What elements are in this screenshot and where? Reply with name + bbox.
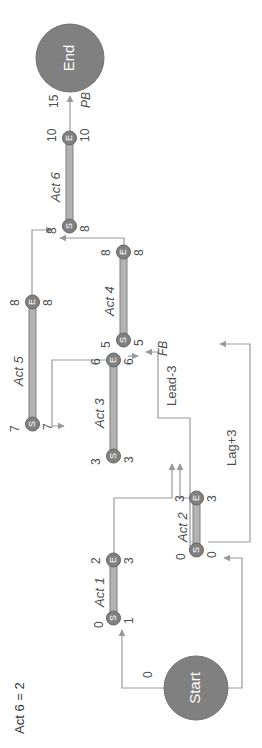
act1-start-early: 0 [92, 621, 106, 628]
end-node[interactable]: End [36, 24, 104, 92]
act6-end-marker: E [64, 135, 74, 141]
act5-start-early: 7 [8, 425, 22, 432]
relation-pb-label: PB [79, 92, 93, 108]
diagram-note: Act 6 = 2 [12, 682, 27, 734]
link-act4-to-act6 [60, 238, 124, 248]
act1-end-marker: E [108, 557, 118, 563]
activity-act5[interactable]: S E Act 5 7 7 8 8 [8, 295, 55, 432]
act2-label: Act 2 [175, 512, 190, 543]
link-act1-to-act3 [114, 464, 172, 556]
act1-start-marker: S [108, 615, 118, 621]
act2-start-early: 0 [174, 553, 188, 560]
act1-end-early: 2 [89, 557, 103, 564]
start-node[interactable]: Start [164, 656, 228, 720]
act4-start-marker: S [118, 337, 128, 343]
act3-start-early: 3 [89, 458, 103, 465]
diagram-rotator: Start 0 End 15 [0, 0, 262, 748]
activity-act6[interactable]: S E Act 6 8 8 10 10 [45, 128, 92, 234]
act3-end-late: 6 [122, 358, 136, 365]
act1-label: Act 1 [92, 577, 107, 608]
link-act5-to-act6 [32, 230, 52, 296]
act4-start-late: 5 [132, 339, 146, 346]
activity-act1[interactable]: S E Act 1 0 1 2 3 [89, 553, 136, 628]
act6-start-late: 8 [78, 225, 92, 232]
act2-end-early: 3 [173, 495, 187, 502]
act2-end-marker: E [191, 495, 201, 501]
act6-end-early: 10 [45, 128, 59, 142]
act5-label: Act 5 [11, 356, 26, 387]
act4-end-marker: E [118, 249, 128, 255]
act3-start-late: 3 [122, 456, 136, 463]
act1-end-late: 3 [122, 557, 136, 564]
act4-end-late: 8 [132, 249, 146, 256]
act6-label: Act 6 [48, 172, 63, 203]
act6-start-marker: S [64, 223, 74, 229]
end-node-label: End [60, 45, 77, 72]
activity-act4[interactable]: S E Act 4 5 5 8 8 [99, 245, 146, 348]
act3-end-early: 6 [89, 358, 103, 365]
link-start-to-act2 [224, 558, 242, 688]
start-node-value: 0 [141, 671, 155, 678]
act5-end-late: 8 [41, 299, 55, 306]
act3-end-marker: E [108, 357, 118, 363]
network-diagram-canvas: Start 0 End 15 [0, 0, 262, 748]
precedence-network-svg: Start 0 End 15 [0, 0, 262, 748]
act3-start-marker: S [108, 453, 118, 459]
act5-end-marker: E [27, 299, 37, 305]
act6-start-early: 8 [45, 227, 59, 234]
act3-label: Act 3 [92, 398, 107, 429]
act4-end-early: 8 [99, 249, 113, 256]
act2-end-late: 3 [205, 495, 219, 502]
act4-start-early: 5 [99, 341, 113, 348]
act5-start-marker: S [27, 421, 37, 427]
act6-end-late: 10 [78, 128, 92, 142]
relation-lag3-label: Lag+3 [224, 429, 239, 466]
end-node-value: 15 [47, 94, 61, 108]
start-node-label: Start [186, 671, 203, 704]
relation-lead3-label: Lead-3 [164, 366, 179, 406]
act5-end-early: 8 [8, 299, 22, 306]
link-start-to-act1 [122, 630, 164, 688]
act2-start-marker: S [191, 547, 201, 553]
act1-start-late: 1 [122, 617, 136, 624]
relation-fb-label: FB [156, 341, 170, 356]
activity-act2[interactable]: S E Act 2 0 0 3 3 [173, 491, 219, 560]
activity-act3[interactable]: S E Act 3 3 3 6 6 [89, 353, 136, 465]
act5-start-late: 7 [41, 423, 55, 430]
act4-label: Act 4 [102, 286, 117, 317]
act2-start-late: 0 [205, 551, 219, 558]
